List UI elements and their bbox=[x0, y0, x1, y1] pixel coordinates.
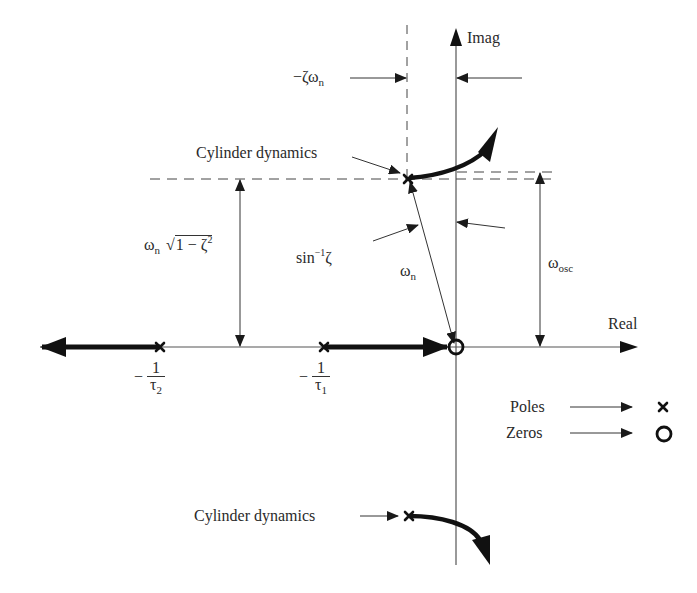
sqrt-body: 1 − ζ bbox=[176, 236, 208, 253]
cylinder-dynamics-upper-label: Cylinder dynamics bbox=[196, 145, 317, 161]
tau2-minus: − bbox=[134, 368, 143, 385]
zeta-wn-text: −ζω bbox=[293, 68, 319, 85]
wosc-text: ω bbox=[548, 254, 559, 271]
tau2-pole-label: − 1τ2 bbox=[134, 360, 165, 393]
tau1-sub: 1 bbox=[321, 384, 327, 396]
sqrt-sup: 2 bbox=[207, 234, 212, 245]
imag-axis-label: Imag bbox=[467, 30, 500, 46]
zeta-wn-sub: n bbox=[319, 76, 325, 88]
imag-axis bbox=[450, 28, 462, 565]
tau2-sub: 2 bbox=[156, 384, 162, 396]
root-locus-diagram bbox=[0, 0, 697, 593]
asin-zeta-label: sin−1ζ bbox=[296, 250, 332, 266]
omega-symbol: ω bbox=[144, 236, 155, 253]
legend-zero-icon bbox=[657, 427, 671, 441]
damped-frequency-label: ωn √1 − ζ2 bbox=[144, 237, 212, 253]
asin-text: sin bbox=[296, 249, 315, 266]
asin-arg: ζ bbox=[325, 249, 332, 266]
legend-poles-label: Poles bbox=[510, 399, 545, 415]
wn-label: ωn bbox=[400, 263, 416, 279]
tau1-pole-label: − 1τ1 bbox=[299, 360, 330, 393]
omega-sub: n bbox=[155, 244, 161, 256]
wn-radial-line bbox=[410, 182, 432, 262]
asin-sup: −1 bbox=[315, 247, 326, 258]
tau2-num: 1 bbox=[147, 360, 165, 377]
tau1-minus: − bbox=[299, 368, 308, 385]
wn-text: ω bbox=[400, 262, 411, 279]
tau1-num: 1 bbox=[312, 360, 330, 377]
legend-zeros-label: Zeros bbox=[506, 425, 542, 441]
zeta-wn-label: −ζωn bbox=[293, 69, 324, 85]
cylinder-dynamics-lower-label: Cylinder dynamics bbox=[194, 508, 315, 524]
legend-pole-icon bbox=[659, 403, 667, 411]
locus-branches bbox=[42, 127, 498, 565]
real-axis-label: Real bbox=[608, 316, 637, 332]
wn-sub: n bbox=[411, 270, 417, 282]
wosc-sub: osc bbox=[559, 262, 574, 274]
wosc-label: ωosc bbox=[548, 255, 573, 271]
